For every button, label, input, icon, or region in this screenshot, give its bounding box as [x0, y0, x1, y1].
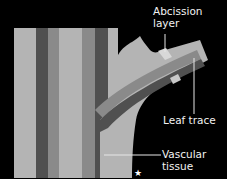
vascular-band-medium-left	[48, 28, 59, 178]
leaf-trace-label: Leaf trace	[163, 114, 216, 126]
vascular-band-dark-left	[36, 28, 48, 178]
vascular-band-medium-right	[82, 28, 95, 178]
vascular-tissue-label: Vascular tissue	[162, 148, 206, 172]
star-icon: ★	[134, 169, 142, 178]
abscission-layer-label: Abcission layer	[153, 5, 202, 29]
